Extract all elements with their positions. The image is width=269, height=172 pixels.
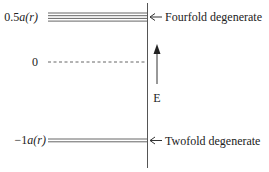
energy-arrow-head (154, 44, 161, 54)
lower-level-label: −1a(r) (15, 133, 46, 147)
twofold-degenerate-label: Twofold degenerate (165, 134, 260, 148)
lower-level-lines (48, 139, 147, 142)
upper-level-lines (48, 13, 147, 21)
energy-arrow (154, 44, 161, 84)
zero-level-label: 0 (32, 55, 38, 69)
upper-level-label: 0.5a(r) (4, 10, 38, 24)
lower-annotation-arrow (150, 137, 162, 144)
upper-annotation-arrow (150, 14, 162, 21)
energy-level-diagram: 0.5a(r) Fourfold degenerate 0 E −1a(r) T… (0, 0, 269, 172)
energy-axis-label: E (153, 91, 160, 105)
fourfold-degenerate-label: Fourfold degenerate (165, 10, 262, 24)
